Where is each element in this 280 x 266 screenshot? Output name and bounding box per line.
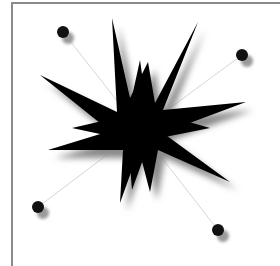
- dot-icon: [236, 49, 248, 61]
- dot-icon: [32, 201, 44, 213]
- starburst-graphic: [0, 0, 280, 266]
- dot-icon: [212, 224, 224, 236]
- dot-icon: [57, 26, 69, 38]
